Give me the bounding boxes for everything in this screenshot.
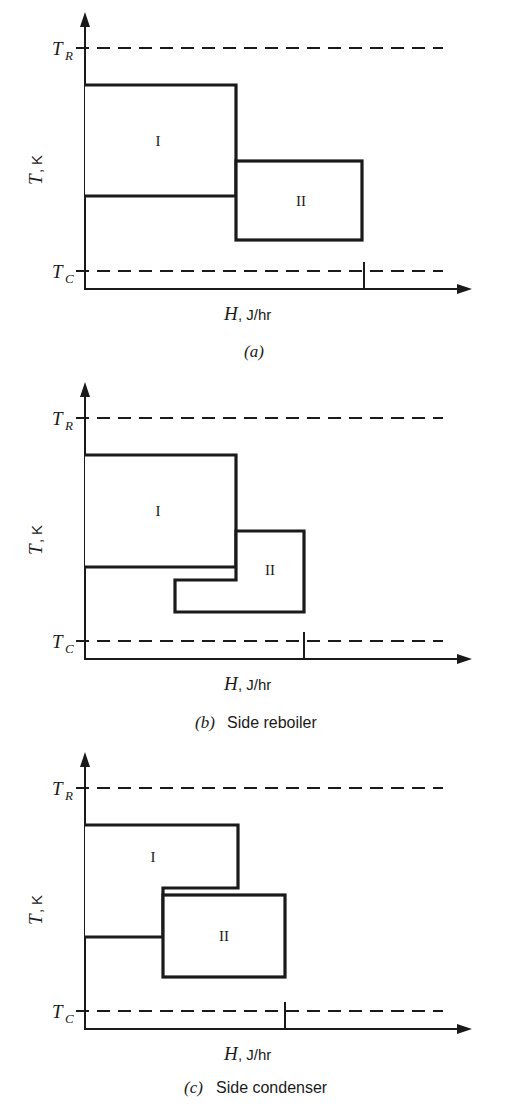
reboiler-temp-label-c: T R bbox=[52, 778, 73, 803]
condenser-temp-label-c: T C bbox=[52, 1001, 74, 1026]
caption-a: (a) bbox=[244, 342, 264, 361]
x-axis-unit-c: , J/hr bbox=[238, 1046, 271, 1063]
condenser-temp-symbol-a: T bbox=[52, 261, 64, 282]
x-axis-b bbox=[85, 654, 472, 664]
condenser-temp-subscript-a: C bbox=[65, 271, 74, 286]
x-axis-symbol-c: H bbox=[223, 1043, 239, 1064]
panel-c: I II T R T C T , K H , J/hr (c) Side con… bbox=[0, 740, 507, 1105]
y-axis-comma-c: , bbox=[28, 909, 45, 913]
reboiler-temp-subscript-a: R bbox=[64, 48, 73, 63]
reboiler-temp-symbol-c: T bbox=[52, 778, 64, 799]
x-axis-arrow-icon bbox=[457, 284, 472, 294]
x-axis-title-b: H , J/hr bbox=[223, 673, 271, 694]
y-axis-symbol-c: T bbox=[25, 913, 46, 925]
caption-b: (b) Side reboiler bbox=[195, 713, 318, 732]
y-axis-comma-a: , bbox=[28, 169, 45, 173]
x-axis-title-a: H , J/hr bbox=[223, 303, 271, 324]
reboiler-temp-subscript-c: R bbox=[64, 788, 73, 803]
y-axis-arrow-icon bbox=[80, 12, 90, 27]
y-axis-unit-a: K bbox=[28, 155, 45, 165]
reboiler-temp-label-b: T R bbox=[52, 408, 73, 433]
panel-b: I II T R T C T , K H , J/hr (b) Side reb… bbox=[0, 370, 507, 740]
y-axis-unit-b: K bbox=[28, 525, 45, 535]
x-axis-unit-b: , J/hr bbox=[238, 676, 271, 693]
x-axis-c bbox=[85, 1024, 472, 1034]
x-axis-symbol-a: H bbox=[223, 303, 239, 324]
x-axis-a bbox=[85, 284, 472, 294]
condenser-temp-symbol-b: T bbox=[52, 631, 64, 652]
panel-a-plot: I II T R T C T , K H , J/hr (a) bbox=[0, 0, 507, 370]
y-axis-title-c: T , K bbox=[25, 895, 46, 925]
y-axis-arrow-icon bbox=[80, 382, 90, 397]
reboiler-temp-symbol-a: T bbox=[52, 38, 64, 59]
y-axis-arrow-icon bbox=[80, 752, 90, 767]
figure-page: { "figure": { "axis": { "y_label_symbol"… bbox=[0, 0, 507, 1105]
region-one-label-a: I bbox=[156, 133, 161, 149]
reboiler-temp-symbol-b: T bbox=[52, 408, 64, 429]
region-two-label-a: II bbox=[296, 193, 306, 209]
region-two-label-c: II bbox=[219, 928, 229, 944]
panel-a: I II T R T C T , K H , J/hr (a) bbox=[0, 0, 507, 370]
x-axis-symbol-b: H bbox=[223, 673, 239, 694]
condenser-temp-subscript-b: C bbox=[65, 641, 74, 656]
caption-text-c: Side condenser bbox=[216, 1079, 328, 1096]
region-one-b bbox=[85, 455, 236, 567]
y-axis-title-a: T , K bbox=[25, 155, 46, 185]
x-axis-arrow-icon bbox=[457, 1024, 472, 1034]
panel-b-plot: I II T R T C T , K H , J/hr (b) Side reb… bbox=[0, 370, 507, 740]
y-axis-title-b: T , K bbox=[25, 525, 46, 555]
y-axis-comma-b: , bbox=[28, 539, 45, 543]
x-axis-unit-a: , J/hr bbox=[238, 306, 271, 323]
caption-tag-a: (a) bbox=[244, 342, 264, 361]
condenser-temp-symbol-c: T bbox=[52, 1001, 64, 1022]
reboiler-temp-subscript-b: R bbox=[64, 418, 73, 433]
y-axis-symbol-a: T bbox=[25, 173, 46, 185]
condenser-temp-subscript-c: C bbox=[65, 1011, 74, 1026]
condenser-temp-label-a: T C bbox=[52, 261, 74, 286]
panel-c-plot: I II T R T C T , K H , J/hr (c) Side con… bbox=[0, 740, 507, 1105]
region-one-label-b: I bbox=[156, 503, 161, 519]
reboiler-temp-label-a: T R bbox=[52, 38, 73, 63]
region-one-label-c: I bbox=[151, 849, 156, 865]
x-axis-title-c: H , J/hr bbox=[223, 1043, 271, 1064]
caption-tag-b: (b) bbox=[195, 713, 215, 732]
region-two-label-b: II bbox=[265, 562, 275, 578]
caption-tag-c: (c) bbox=[184, 1078, 203, 1097]
x-axis-arrow-icon bbox=[457, 654, 472, 664]
region-one-a bbox=[85, 85, 236, 196]
caption-text-b: Side reboiler bbox=[227, 714, 318, 731]
y-axis-unit-c: K bbox=[28, 895, 45, 905]
condenser-temp-label-b: T C bbox=[52, 631, 74, 656]
y-axis-symbol-b: T bbox=[25, 543, 46, 555]
caption-c: (c) Side condenser bbox=[184, 1078, 328, 1097]
